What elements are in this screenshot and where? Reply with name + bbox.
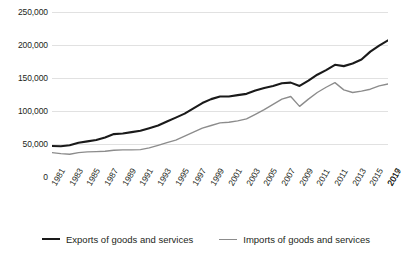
- legend-line-swatch-icon: [219, 239, 237, 240]
- line-chart: 050,000100,000150,000200,000250,000 1981…: [0, 0, 412, 258]
- plot-area: [52, 12, 388, 177]
- y-tick-label: 50,000: [0, 140, 48, 149]
- y-axis: 050,000100,000150,000200,000250,000: [0, 0, 48, 190]
- x-axis: 1981198319851987198919911993199519971999…: [0, 177, 412, 223]
- legend-line-swatch-icon: [42, 238, 60, 240]
- legend-label: Exports of goods and services: [66, 234, 193, 245]
- series-line: [52, 40, 388, 146]
- y-tick-label: 250,000: [0, 8, 48, 17]
- legend-label: Imports of goods and services: [243, 234, 370, 245]
- chart-legend: Exports of goods and servicesImports of …: [0, 228, 412, 250]
- plot-svg: [52, 12, 388, 177]
- y-tick-label: 200,000: [0, 41, 48, 50]
- gridlines: [52, 13, 388, 178]
- y-tick-label: 100,000: [0, 107, 48, 116]
- series-line: [52, 83, 388, 155]
- legend-item[interactable]: Exports of goods and services: [42, 234, 193, 245]
- y-tick-label: 150,000: [0, 74, 48, 83]
- legend-item[interactable]: Imports of goods and services: [219, 234, 370, 245]
- series-lines: [52, 40, 388, 154]
- x-tick-label: 2019: [386, 167, 403, 188]
